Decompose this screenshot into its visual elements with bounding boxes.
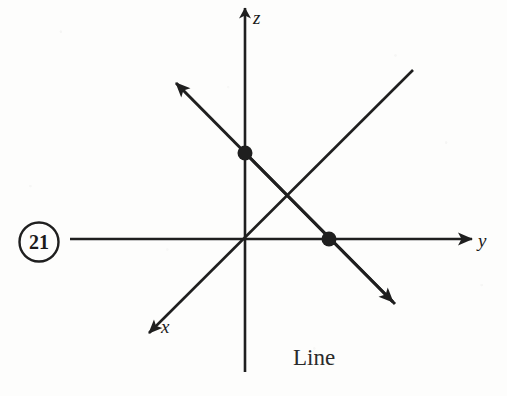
y-axis-label: y — [476, 230, 487, 251]
line-caption: Line — [293, 345, 335, 370]
coordinate-axes-figure: z y x Line 21 — [0, 0, 507, 396]
z-axis-label: z — [252, 7, 261, 28]
figure-page: z y x Line 21 — [0, 0, 507, 396]
point-on-y-axis — [322, 232, 337, 247]
point-on-z-axis — [238, 146, 253, 161]
x-axis-label: x — [160, 316, 170, 337]
problem-number-badge: 21 — [20, 223, 59, 262]
problem-number-label: 21 — [29, 231, 49, 253]
x-axis — [149, 70, 413, 333]
illustrated-line-reverse-head — [250, 158, 393, 302]
